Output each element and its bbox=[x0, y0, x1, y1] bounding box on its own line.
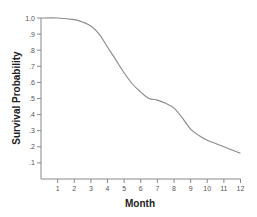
survival-chart: 1.0.9.8.7.6.5.4.3.2.1 123456789101112 Mo… bbox=[0, 0, 257, 217]
y-tick-label: .6 bbox=[29, 79, 35, 86]
y-tick-label: .2 bbox=[29, 143, 35, 150]
y-tick-label: .5 bbox=[29, 95, 35, 102]
x-tick-label: 12 bbox=[237, 185, 245, 192]
x-axis-title: Month bbox=[125, 198, 155, 209]
x-tick-labels: 123456789101112 bbox=[56, 185, 245, 192]
y-tick-label: .3 bbox=[29, 127, 35, 134]
y-axis-title: Survival Probability bbox=[11, 51, 22, 145]
y-tick-label: .8 bbox=[29, 47, 35, 54]
x-tick-label: 4 bbox=[106, 185, 110, 192]
y-tick-label: .4 bbox=[29, 111, 35, 118]
x-tick-label: 7 bbox=[155, 185, 159, 192]
axes bbox=[37, 18, 241, 183]
x-tick-label: 11 bbox=[220, 185, 227, 192]
x-tick-label: 1 bbox=[56, 185, 60, 192]
y-tick-labels: 1.0.9.8.7.6.5.4.3.2.1 bbox=[25, 15, 35, 167]
y-tick-label: .1 bbox=[29, 159, 35, 166]
x-tick-label: 2 bbox=[72, 185, 76, 192]
y-tick-label: .7 bbox=[29, 63, 35, 70]
y-tick-label: 1.0 bbox=[25, 15, 35, 22]
y-tick-label: .9 bbox=[29, 31, 35, 38]
x-tick-label: 6 bbox=[139, 185, 143, 192]
x-tick-label: 10 bbox=[203, 185, 211, 192]
x-tick-label: 5 bbox=[122, 185, 126, 192]
survival-curve bbox=[41, 18, 241, 153]
x-tick-label: 3 bbox=[89, 185, 93, 192]
x-tick-label: 9 bbox=[189, 185, 193, 192]
x-tick-label: 8 bbox=[172, 185, 176, 192]
